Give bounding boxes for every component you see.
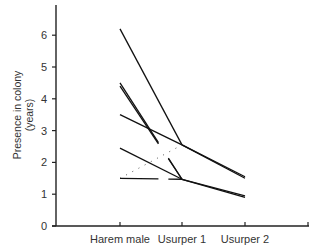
x-tick-label: Usurper 2 [221, 233, 269, 245]
x-tick-label: Usurper 1 [158, 233, 206, 245]
axes [52, 5, 309, 226]
x-tick-label: Harem male [90, 233, 150, 245]
y-tick-label: 6 [41, 29, 47, 41]
series-line [120, 86, 158, 144]
data-series [120, 29, 245, 198]
series-line [120, 178, 158, 179]
series-line [120, 145, 182, 178]
y-ticks: 0123456 [41, 29, 56, 232]
y-axis-label-line-2: (years) [23, 71, 35, 160]
series-line [120, 115, 182, 145]
series-line [182, 179, 245, 196]
series-line [182, 145, 245, 177]
line-chart: 0123456 Harem maleUsurper 1Usurper 2 [0, 0, 315, 251]
series-line [120, 83, 158, 143]
y-axis-label: Presence in colony (years) [3, 60, 43, 170]
series-line [120, 29, 182, 145]
y-tick-label: 0 [41, 220, 47, 232]
y-axis-label-line-1: Presence in colony [11, 71, 23, 160]
y-tick-label: 1 [41, 188, 47, 200]
